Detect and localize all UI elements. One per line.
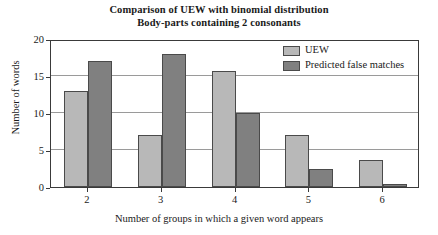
x-tick-mark xyxy=(161,188,162,192)
x-tick-label: 6 xyxy=(379,195,384,206)
legend-label-predicted-false-matches: Predicted false matches xyxy=(305,60,404,71)
bar xyxy=(309,169,333,187)
x-axis-title: Number of groups in which a given word a… xyxy=(0,213,438,224)
bar xyxy=(64,91,88,187)
y-axis-title: Number of words xyxy=(10,43,21,153)
x-tick-mark xyxy=(382,188,383,192)
legend-item-uew: UEW xyxy=(283,44,415,57)
chart-title-block: Comparison of UEW with binomial distribu… xyxy=(0,4,438,29)
y-axis: Number of words 05101520 xyxy=(0,0,50,235)
chart-figure: Comparison of UEW with binomial distribu… xyxy=(0,0,438,235)
bar xyxy=(88,61,112,187)
legend-swatch-predicted-false-matches xyxy=(283,61,300,71)
x-tick-label: 5 xyxy=(306,195,311,206)
bar xyxy=(236,113,260,187)
bar xyxy=(359,160,383,187)
legend-swatch-uew xyxy=(283,46,300,56)
bar xyxy=(212,71,236,187)
x-tick-mark xyxy=(235,188,236,192)
x-tick-label: 3 xyxy=(158,195,163,206)
chart-subtitle: Body-parts containing 2 consonants xyxy=(0,17,438,30)
x-tick-mark xyxy=(87,188,88,192)
legend-label-uew: UEW xyxy=(305,45,329,56)
y-tick-label: 10 xyxy=(34,109,45,120)
x-axis: 23456 xyxy=(50,188,419,214)
legend-item-predicted-false-matches: Predicted false matches xyxy=(283,59,415,72)
chart-legend: UEW Predicted false matches xyxy=(283,44,415,74)
x-tick-mark xyxy=(308,188,309,192)
x-tick-label: 2 xyxy=(84,195,89,206)
bar xyxy=(383,184,407,187)
bar xyxy=(138,135,162,187)
bar xyxy=(162,54,186,187)
y-tick-label: 5 xyxy=(39,146,44,157)
bar xyxy=(285,135,309,187)
y-tick-label: 20 xyxy=(34,35,45,46)
chart-title: Comparison of UEW with binomial distribu… xyxy=(0,4,438,17)
y-tick-label: 0 xyxy=(39,183,44,194)
y-tick-label: 15 xyxy=(34,72,45,83)
x-tick-label: 4 xyxy=(232,195,237,206)
